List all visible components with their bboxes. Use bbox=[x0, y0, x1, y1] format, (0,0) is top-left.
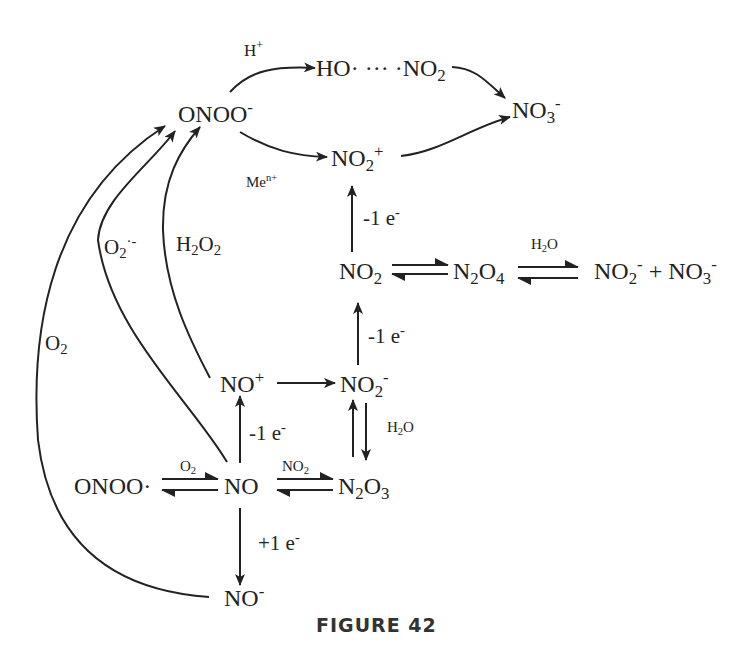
label-sub: 4 bbox=[496, 269, 504, 288]
label-sub: 2 bbox=[60, 341, 67, 357]
label-sup: - bbox=[259, 582, 265, 601]
label-base: O bbox=[180, 458, 191, 474]
cond-superoxide: O2·- bbox=[104, 237, 136, 258]
label-sub: 2 bbox=[119, 245, 126, 261]
cond-h-plus: H+ bbox=[244, 42, 263, 59]
label-b: O bbox=[199, 232, 214, 256]
label-a: H bbox=[387, 419, 398, 435]
label-base: +1 e bbox=[258, 531, 295, 555]
label-b: O bbox=[479, 258, 496, 284]
arrow-nominus-to-onoo bbox=[36, 126, 209, 597]
label-sup: - bbox=[711, 255, 717, 274]
figure-caption: FIGURE 42 bbox=[316, 614, 437, 636]
label-base: NO bbox=[224, 585, 259, 611]
label-base: ONOO· bbox=[74, 473, 151, 499]
label-sub: 3 bbox=[703, 269, 711, 288]
label-sub: 2 bbox=[366, 156, 374, 175]
label-a: H bbox=[531, 236, 542, 252]
label-base: HO· ··· ·NO bbox=[316, 55, 437, 81]
cond-me-n-plus: Men+ bbox=[246, 175, 277, 190]
species-n2o3: N2O3 bbox=[338, 474, 389, 498]
species-no3-minus: NO3- bbox=[512, 98, 561, 122]
label-a: H bbox=[176, 232, 191, 256]
label-sup: - bbox=[295, 529, 300, 545]
cond-ox-no-noplus: -1 e- bbox=[249, 423, 286, 444]
label-b: O bbox=[403, 419, 414, 435]
label-sup: - bbox=[383, 368, 389, 387]
label-sub: 2 bbox=[214, 242, 221, 258]
arrow-no-to-onoo-superoxide bbox=[98, 131, 227, 462]
label-base: -1 e bbox=[249, 421, 281, 445]
label-sub: 2 bbox=[470, 269, 478, 288]
label-base: NO bbox=[224, 473, 259, 499]
label-base: ONOO bbox=[178, 101, 247, 127]
species-products: NO2- + NO3- bbox=[594, 259, 717, 283]
species-no2-plus: NO2+ bbox=[331, 146, 384, 170]
label-sup: ·- bbox=[127, 233, 137, 249]
label-b: O bbox=[364, 473, 381, 499]
label-a: N bbox=[453, 258, 470, 284]
label-base: -1 e bbox=[363, 206, 395, 230]
cond-h2o2: H2O2 bbox=[176, 234, 221, 255]
cond-h2o-side: H2O bbox=[387, 420, 414, 435]
label-sup: + bbox=[374, 142, 383, 161]
label-sub: 2 bbox=[374, 269, 382, 288]
label-sup: - bbox=[400, 322, 405, 338]
label-sup: + bbox=[256, 38, 263, 52]
label-sub: 2 bbox=[191, 465, 196, 476]
label-sup: - bbox=[555, 94, 561, 113]
label-plus: + NO bbox=[643, 258, 703, 284]
arrow-ho-no2-to-no3 bbox=[452, 67, 505, 98]
label-sub: 2 bbox=[304, 465, 309, 476]
cond-ox-no2-no2plus: -1 e- bbox=[363, 208, 400, 229]
label-base: NO bbox=[339, 258, 374, 284]
label-a: N bbox=[338, 473, 355, 499]
species-no-plus: NO+ bbox=[220, 372, 264, 396]
label-base: O bbox=[45, 331, 60, 355]
arrow-onoo-to-no2plus bbox=[240, 132, 327, 157]
label-base: Me bbox=[246, 174, 266, 190]
cond-h2o-top: H2O bbox=[531, 237, 558, 252]
species-no: NO bbox=[224, 474, 259, 498]
label-sup: n+ bbox=[266, 172, 277, 183]
cond-ox-no2minus-no2: -1 e- bbox=[368, 326, 405, 347]
label-sup: - bbox=[247, 98, 253, 117]
label-base: NO bbox=[340, 371, 375, 397]
label-sup: + bbox=[255, 368, 264, 387]
label-sub: 3 bbox=[381, 484, 389, 503]
species-no-minus: NO- bbox=[224, 586, 264, 610]
label-sub: 3 bbox=[547, 108, 555, 127]
cond-no2-small: NO2 bbox=[282, 459, 309, 474]
label-base: NO bbox=[331, 145, 366, 171]
label-sub: 2 bbox=[437, 66, 445, 85]
label-base: H bbox=[244, 41, 256, 60]
label-base: -1 e bbox=[368, 324, 400, 348]
label-sub: 2 bbox=[355, 484, 363, 503]
label-sup: - bbox=[395, 204, 400, 220]
cond-o2-small: O2 bbox=[180, 459, 196, 474]
arrow-onoo-to-ho-no2 bbox=[230, 68, 315, 92]
label-a: NO bbox=[594, 258, 629, 284]
label-base: NO bbox=[282, 458, 304, 474]
species-n2o4: N2O4 bbox=[453, 259, 504, 283]
label-sup: - bbox=[281, 419, 286, 435]
label-sub: 2 bbox=[629, 269, 637, 288]
label-sub: 2 bbox=[375, 382, 383, 401]
species-onoo-minus: ONOO- bbox=[178, 102, 253, 126]
label-b: O bbox=[547, 236, 558, 252]
cond-red-no-nominus: +1 e- bbox=[258, 533, 300, 554]
species-onoo-radical: ONOO· bbox=[74, 474, 151, 498]
species-no2: NO2 bbox=[339, 259, 382, 283]
species-ho-no2: HO· ··· ·NO2 bbox=[316, 56, 446, 80]
arrow-no2plus-to-no3 bbox=[401, 117, 510, 156]
label-sub: 2 bbox=[191, 242, 198, 258]
species-no2-minus: NO2- bbox=[340, 372, 389, 396]
label-base: NO bbox=[512, 97, 547, 123]
label-base: NO bbox=[220, 371, 255, 397]
label-base: O bbox=[104, 235, 119, 259]
cond-o2-curve: O2 bbox=[45, 333, 68, 354]
